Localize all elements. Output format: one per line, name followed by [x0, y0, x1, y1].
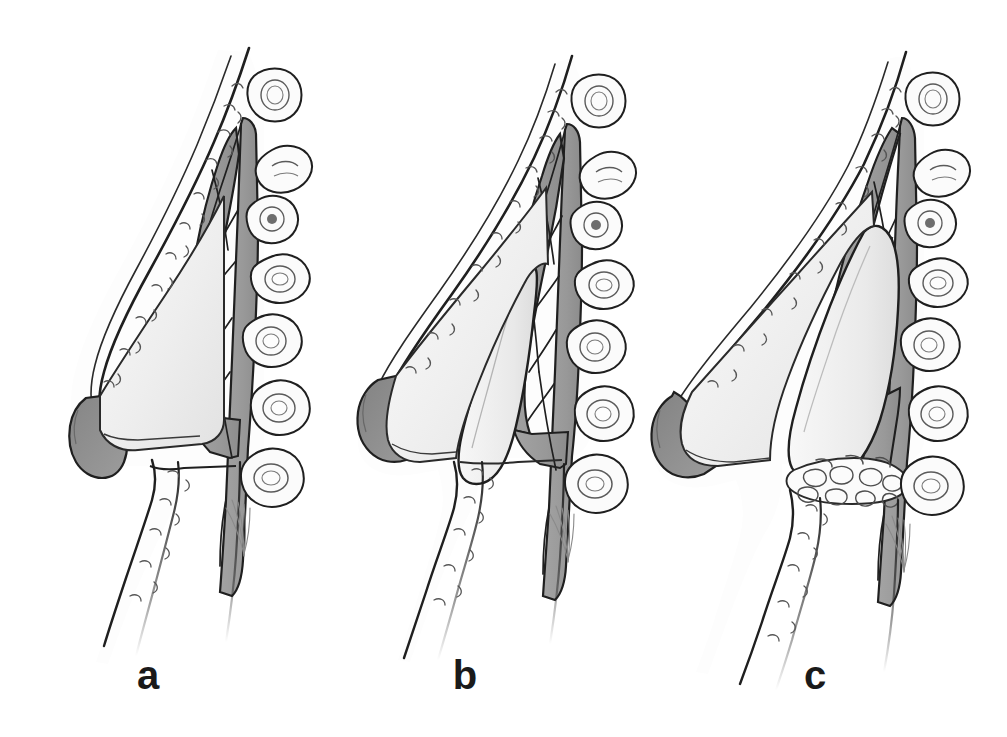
turbinate-oval-5 [567, 320, 626, 373]
turbinate-oval-7 [241, 449, 304, 507]
turbinate-oval-4 [575, 260, 634, 309]
turbinate-oval-3 [570, 202, 622, 249]
panel-c-illustration [630, 0, 1007, 737]
turbinate-oval-6 [251, 380, 310, 435]
panel-label-b: b [435, 655, 495, 695]
turbinate-oval-1 [905, 73, 959, 126]
turbinate-oval-7 [901, 457, 964, 515]
turbinate-oval-4 [251, 254, 310, 303]
panel-b [320, 0, 670, 737]
turbinate-oval-6 [909, 386, 968, 441]
panel-c [630, 0, 1007, 737]
columella-base [404, 462, 564, 660]
turbinate-oval-5 [901, 318, 960, 371]
turbinate-oval-1 [247, 69, 301, 122]
turbinate-oval-3 [246, 196, 298, 243]
figure-root: a b c [0, 0, 1007, 737]
turbinate-oval-6 [575, 386, 634, 441]
turbinate-oval-4 [909, 258, 968, 307]
turbinate-oval-1 [571, 75, 625, 128]
panel-label-c: c [785, 655, 845, 695]
turbinate-oval-7 [565, 455, 628, 513]
panel-a [0, 0, 340, 737]
panel-b-illustration [320, 0, 670, 737]
turbinate-oval-2 [256, 146, 312, 193]
panel-label-a: a [118, 655, 178, 695]
panel-a-illustration [0, 0, 340, 737]
turbinate-oval-5 [243, 314, 302, 367]
turbinate-oval-3 [904, 200, 956, 247]
